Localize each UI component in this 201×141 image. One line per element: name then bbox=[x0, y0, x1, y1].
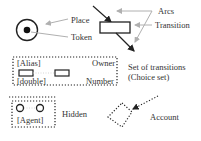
place-label: Place bbox=[71, 15, 90, 25]
arcs-label: Arcs bbox=[158, 6, 174, 16]
place-symbol bbox=[17, 20, 38, 41]
token-symbol bbox=[24, 27, 31, 34]
place-pointer-arrow bbox=[46, 19, 68, 24]
arc-in bbox=[93, 6, 111, 22]
agent-place-2 bbox=[37, 105, 44, 112]
number-label: Number bbox=[86, 76, 114, 86]
token-label: Token bbox=[71, 32, 93, 42]
petri-net-legend-diagram: Place Token Arcs Transition [Alias] Owne… bbox=[0, 0, 201, 141]
agent-label: [Agent] bbox=[17, 115, 44, 125]
choice-set-label-line1: Set of transitions bbox=[128, 62, 186, 72]
account-label: Account bbox=[150, 112, 179, 122]
transition-label: Transition bbox=[155, 20, 190, 30]
double-label: [double] bbox=[17, 76, 46, 86]
transition-symbol bbox=[100, 22, 130, 33]
arcs-pointer-arrow-2 bbox=[135, 11, 152, 42]
arc-out bbox=[116, 33, 134, 51]
choice-transition-2 bbox=[55, 70, 69, 76]
choice-set-label-line2: (Choice set) bbox=[128, 72, 169, 82]
account-symbol bbox=[108, 103, 132, 127]
account-pointer-arrow bbox=[133, 96, 158, 109]
hidden-label: Hidden bbox=[62, 109, 88, 119]
agent-place-1 bbox=[17, 105, 24, 112]
alias-label: [Alias] bbox=[17, 58, 41, 68]
owner-label: Owner bbox=[92, 58, 115, 68]
